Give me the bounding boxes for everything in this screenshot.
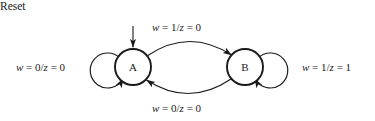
transition-label-a-to-b: w = 1/z = 0 [152, 22, 201, 33]
transition-b-to-a [147, 79, 232, 94]
state-label-a: A [129, 61, 137, 73]
transition-label-b-self-eq2: = 1 [334, 61, 351, 73]
transition-a-to-b [147, 41, 232, 56]
transition-label-a-self-eq2: = 0 [48, 61, 65, 73]
transition-label-a-self-loop: w = 0/z = 0 [16, 62, 65, 73]
state-diagram-canvas: A B Reset w = 0/z = 0 w = 1/z = 0 w = 0/… [0, 0, 375, 121]
transition-label-a-to-b-eq2: = 0 [184, 21, 201, 33]
transition-label-b-to-a-eq1: = 0/ [159, 102, 179, 114]
state-label-b: B [241, 61, 248, 73]
transition-label-a-to-b-eq1: = 1/ [159, 21, 179, 33]
transition-label-a-self-eq1: = 0/ [23, 61, 43, 73]
transition-label-b-to-a-eq2: = 0 [184, 102, 201, 114]
transition-label-b-to-a: w = 0/z = 0 [152, 103, 201, 114]
transition-label-b-self-loop: w = 1/z = 1 [302, 62, 351, 73]
transition-label-b-self-eq1: = 1/ [309, 61, 329, 73]
